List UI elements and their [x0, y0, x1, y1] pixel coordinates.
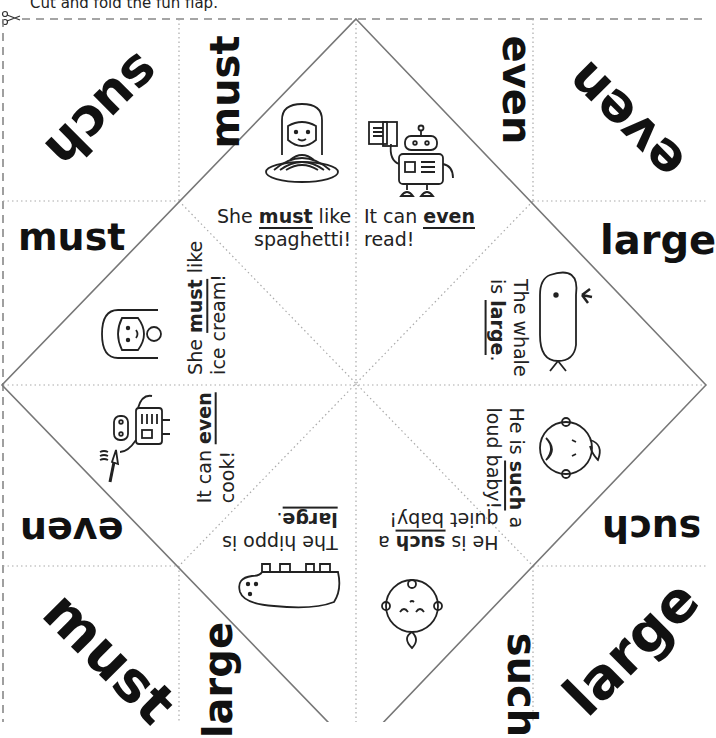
- flap-sentence-quiet-baby: He is such a quiet baby!: [378, 508, 499, 554]
- flap-sentence-spaghetti: She must like spaghetti!: [217, 205, 351, 251]
- robot-book-icon: [365, 120, 460, 200]
- flap-sentence-read: It can even read!: [364, 205, 475, 251]
- girl-spaghetti-icon: [262, 100, 342, 190]
- hippo-icon: [234, 560, 346, 630]
- crying-baby-icon: [532, 410, 607, 485]
- flap-sentence-cook: It can even cook!: [193, 392, 239, 503]
- corner-word-top-right-vert: even: [497, 36, 537, 145]
- corner-word-bottom-left-vert: large: [198, 622, 238, 738]
- corner-word-right-lower: such: [602, 510, 701, 548]
- corner-word-right-upper: large: [600, 220, 716, 260]
- whale-icon: [530, 265, 600, 375]
- flap-sentence-hippo: The hippo is large.: [222, 508, 338, 554]
- robot-pan-icon: [98, 390, 173, 490]
- corner-word-top-left-vert: must: [205, 35, 245, 148]
- corner-word-bottom-right-vert: such: [502, 633, 542, 737]
- corner-word-left-lower: even: [20, 512, 123, 550]
- flap-sentence-whale: The whale is large.: [486, 279, 532, 377]
- corner-word-left-upper: must: [18, 218, 125, 256]
- girl-icecream-icon: [104, 290, 172, 370]
- flap-sentence-icecream: She must like ice cream!: [184, 241, 230, 375]
- sleeping-baby-icon: [376, 570, 451, 650]
